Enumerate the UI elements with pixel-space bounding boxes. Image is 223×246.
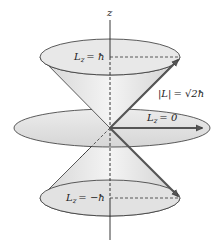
label-magnitude: |L|= √2ħ: [158, 88, 204, 100]
angular-momentum-cone-diagram: z Lz= ħ |L|= √2ħ Lz= 0 Lz= −ħ: [0, 0, 223, 246]
z-axis-label: z: [106, 7, 113, 18]
